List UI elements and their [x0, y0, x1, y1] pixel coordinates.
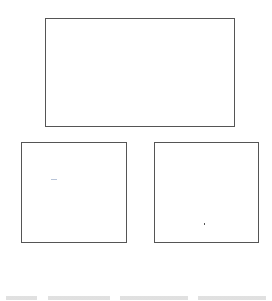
panel-a-field-lines — [21, 142, 127, 243]
cut-off-body-text — [6, 296, 266, 300]
panel-b-field-lines — [154, 142, 259, 243]
stray-mark — [204, 223, 205, 225]
stray-mark — [51, 179, 57, 180]
vector-field-panel — [45, 18, 235, 127]
